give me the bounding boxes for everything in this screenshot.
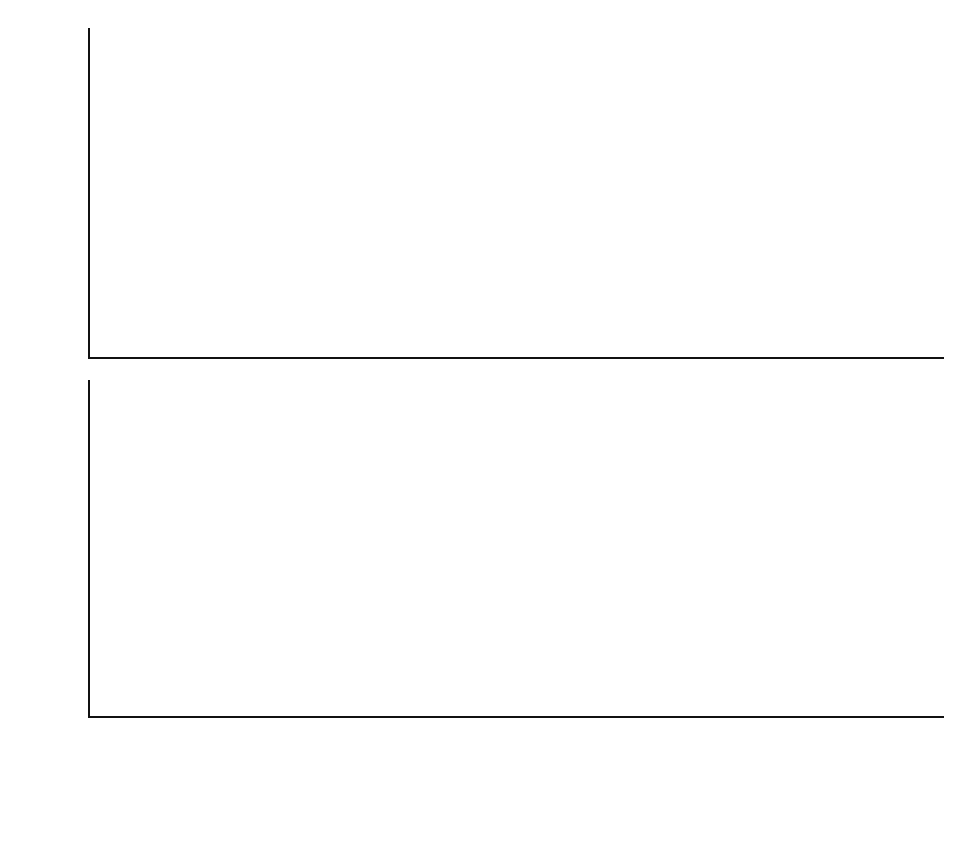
x-axis-labels bbox=[88, 727, 944, 846]
bottom-chart-plot-area bbox=[90, 380, 944, 716]
top-chart-x-ticks bbox=[90, 357, 944, 366]
chart-page bbox=[0, 0, 959, 846]
bottom-chart-x-ticks bbox=[90, 716, 944, 725]
top-chart-plot-area bbox=[90, 28, 944, 357]
top-chart-panel bbox=[88, 28, 944, 359]
bottom-chart-panel bbox=[88, 380, 944, 718]
